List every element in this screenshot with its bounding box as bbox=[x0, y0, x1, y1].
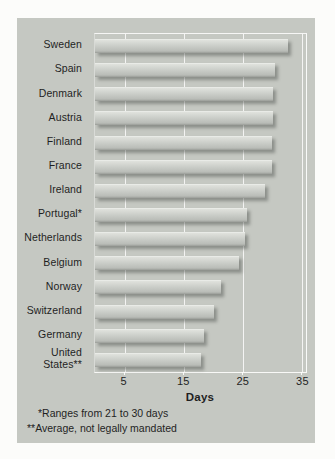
bar bbox=[95, 111, 273, 125]
category-label: France bbox=[17, 154, 88, 178]
category-label: Finland bbox=[17, 130, 88, 154]
x-axis-title: Days bbox=[94, 391, 306, 403]
bar-row bbox=[95, 179, 306, 203]
footnote-united-states: **Average, not legally mandated bbox=[17, 421, 315, 436]
bar-rows bbox=[95, 34, 306, 372]
footnotes: *Ranges from 21 to 30 days **Average, no… bbox=[17, 406, 315, 435]
bar bbox=[95, 256, 239, 270]
category-label: Spain bbox=[17, 57, 88, 81]
category-label: Germany bbox=[17, 323, 88, 347]
bar-row bbox=[95, 227, 306, 251]
category-label: Ireland bbox=[17, 178, 88, 202]
x-axis-tick-labels: 5152535 bbox=[94, 375, 306, 389]
bar bbox=[95, 305, 214, 319]
bar-row bbox=[95, 106, 306, 130]
bar-row bbox=[95, 300, 306, 324]
x-tick-label: 5 bbox=[121, 375, 127, 387]
category-label: Norway bbox=[17, 274, 88, 298]
bar bbox=[95, 87, 273, 101]
bar-row bbox=[95, 34, 306, 58]
bar bbox=[95, 208, 247, 222]
bar-row bbox=[95, 251, 306, 275]
category-label: Austria bbox=[17, 105, 88, 129]
bar bbox=[95, 280, 221, 294]
bar-row bbox=[95, 155, 306, 179]
x-tick-label: 35 bbox=[296, 375, 309, 387]
bar bbox=[95, 160, 272, 174]
bar bbox=[95, 136, 272, 150]
x-tick-label: 25 bbox=[237, 375, 250, 387]
category-label: Belgium bbox=[17, 250, 88, 274]
bar bbox=[95, 39, 288, 53]
bar bbox=[95, 353, 201, 367]
bar-row bbox=[95, 348, 306, 372]
chart-card: SwedenSpainDenmarkAustriaFinlandFranceIr… bbox=[17, 18, 315, 443]
category-label: United States** bbox=[17, 347, 88, 371]
bar-row bbox=[95, 324, 306, 348]
x-tick-label: 15 bbox=[177, 375, 190, 387]
bar bbox=[95, 63, 275, 77]
footnote-portugal: *Ranges from 21 to 30 days bbox=[17, 406, 315, 421]
category-label: Sweden bbox=[17, 33, 88, 57]
bar-row bbox=[95, 203, 306, 227]
plot-area bbox=[94, 33, 307, 373]
bar bbox=[95, 232, 245, 246]
category-label: Portugal* bbox=[17, 202, 88, 226]
category-label: Switzerland bbox=[17, 299, 88, 323]
bar bbox=[95, 184, 265, 198]
category-labels: SwedenSpainDenmarkAustriaFinlandFranceIr… bbox=[17, 33, 88, 371]
page: SwedenSpainDenmarkAustriaFinlandFranceIr… bbox=[0, 0, 335, 459]
bar-row bbox=[95, 58, 306, 82]
bar bbox=[95, 329, 204, 343]
category-label: Denmark bbox=[17, 81, 88, 105]
category-label: Netherlands bbox=[17, 226, 88, 250]
bar-row bbox=[95, 82, 306, 106]
bar-row bbox=[95, 131, 306, 155]
bar-row bbox=[95, 275, 306, 299]
